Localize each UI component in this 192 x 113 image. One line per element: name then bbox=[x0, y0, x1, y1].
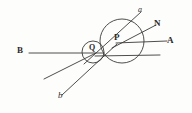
large-circle-at-P bbox=[100, 19, 144, 63]
circle-group bbox=[82, 19, 144, 63]
label-line-b: B bbox=[17, 46, 23, 55]
label-ray-a: a bbox=[138, 6, 142, 14]
line-group bbox=[29, 12, 167, 95]
label-point-q: Q bbox=[89, 44, 95, 52]
label-line-a: A bbox=[167, 36, 174, 45]
figure-canvas bbox=[0, 0, 192, 113]
label-point-p: P bbox=[114, 33, 120, 42]
geometry-figure: a N A P Q B b bbox=[0, 0, 192, 113]
label-normal-n: N bbox=[154, 19, 161, 28]
ray-a bbox=[84, 12, 141, 64]
label-ray-b: b bbox=[58, 91, 63, 100]
ray-lower-left bbox=[44, 53, 96, 79]
